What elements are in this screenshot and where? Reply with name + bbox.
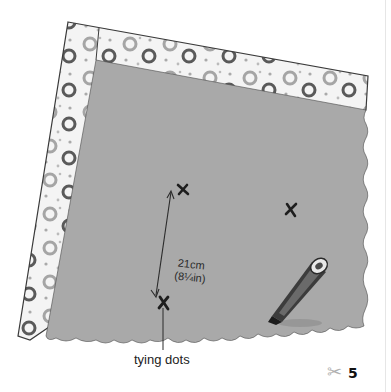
measurement-label: 21cm (8¼in): [174, 256, 208, 285]
felt-square: [46, 60, 368, 343]
craft-illustration: [0, 0, 391, 392]
tying-dots-caption: tying dots: [134, 352, 190, 367]
page-number: 5: [348, 365, 358, 381]
page-edge-line: [385, 0, 386, 392]
scissors-icon: ✂: [327, 363, 342, 381]
